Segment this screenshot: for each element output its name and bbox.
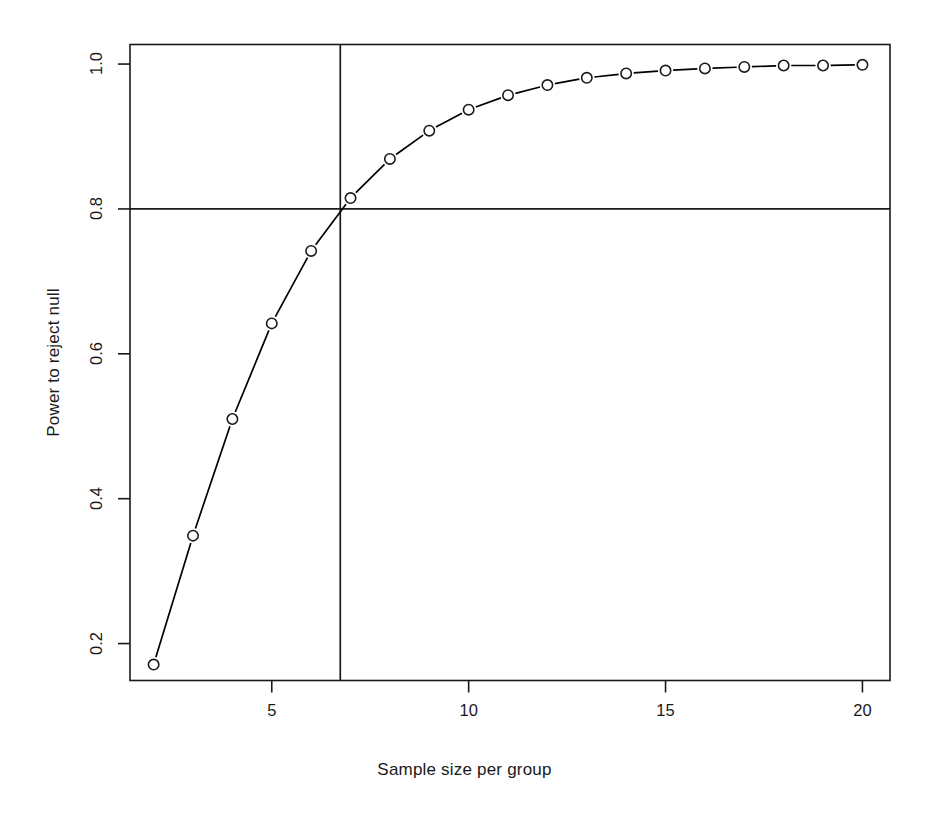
data-point-marker (582, 73, 592, 83)
data-point-marker (188, 530, 198, 540)
y-tick-label: 0.4 (87, 476, 106, 520)
data-point-marker (227, 414, 237, 424)
y-tick-label: 0.8 (87, 186, 106, 230)
y-axis-title: Power to reject null (44, 288, 64, 437)
data-point-marker (306, 246, 316, 256)
data-point-marker (542, 80, 552, 90)
data-point-marker (818, 60, 828, 70)
power-series-markers (148, 60, 867, 670)
x-tick-label: 15 (636, 701, 696, 720)
plot-frame (130, 45, 890, 681)
x-axis-ticks (272, 681, 863, 693)
data-point-marker (345, 193, 355, 203)
data-point-marker (503, 90, 513, 100)
y-axis-ticks (118, 64, 130, 643)
x-tick-label: 5 (242, 701, 302, 720)
x-tick-label: 20 (832, 701, 892, 720)
y-tick-label: 0.6 (87, 331, 106, 375)
data-point-marker (660, 65, 670, 75)
x-tick-label: 10 (439, 701, 499, 720)
power-series-line (156, 65, 855, 657)
data-point-marker (463, 104, 473, 114)
data-point-marker (148, 659, 158, 669)
data-point-marker (857, 60, 867, 70)
power-curve-figure: Sample size per group Power to reject nu… (0, 0, 929, 819)
data-point-marker (424, 126, 434, 136)
data-point-marker (739, 62, 749, 72)
plot-border (130, 45, 890, 681)
data-point-marker (267, 318, 277, 328)
y-tick-label: 0.2 (87, 621, 106, 665)
y-tick-label: 1.0 (87, 42, 106, 86)
data-point-marker (385, 154, 395, 164)
x-axis-title: Sample size per group (0, 760, 929, 780)
reference-lines (130, 45, 890, 681)
data-point-marker (700, 63, 710, 73)
data-point-marker (621, 68, 631, 78)
data-point-marker (778, 60, 788, 70)
plot-canvas (0, 0, 929, 819)
